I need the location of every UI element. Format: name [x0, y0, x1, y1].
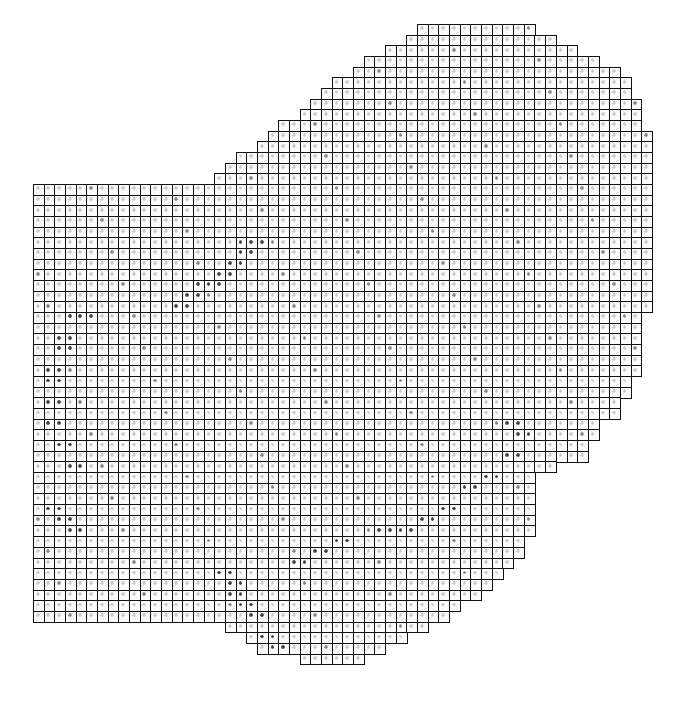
- grid-cell: [492, 568, 504, 580]
- grid-cell: [470, 590, 482, 602]
- grid-cell: [641, 301, 653, 313]
- grid-map: [0, 0, 686, 709]
- grid-cell: [609, 408, 621, 420]
- grid-cell: [577, 451, 589, 463]
- grid-cell: [396, 632, 408, 644]
- grid-cell: [513, 547, 525, 559]
- grid-cell: [449, 600, 461, 612]
- grid-cell: [524, 525, 536, 537]
- grid-cell: [374, 643, 386, 655]
- grid-cell: [438, 611, 450, 623]
- grid-cell: [620, 387, 632, 399]
- grid-cell: [353, 654, 365, 666]
- grid-cell: [417, 622, 429, 634]
- grid-cell: [545, 461, 557, 473]
- grid-cell: [588, 429, 600, 441]
- grid-cell: [481, 579, 493, 591]
- grid-cell: [631, 365, 643, 377]
- grid-cell: [502, 558, 514, 570]
